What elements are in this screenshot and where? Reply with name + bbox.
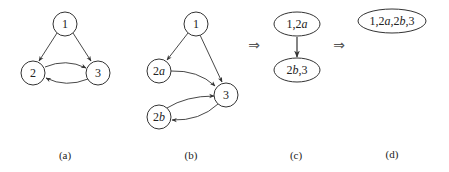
caption-b: (b) <box>185 149 198 162</box>
node-3-label: 3 <box>95 66 101 80</box>
panel-b: 1 2a 3 2b (b) <box>147 12 238 162</box>
caption-c: (c) <box>290 149 303 162</box>
implies-arrow-icon: ⇒ <box>248 37 260 53</box>
panel-d: 1,2a,2b,3 (d) <box>358 9 426 161</box>
node-1-label: 1 <box>193 17 199 31</box>
edge-2a-to-3 <box>171 71 215 86</box>
caption-a: (a) <box>59 149 72 162</box>
edge-1-to-2 <box>39 33 57 61</box>
implies-arrow-icon: ⇒ <box>333 37 345 53</box>
node-2b-label: 2b <box>153 110 165 124</box>
edge-1-to-3 <box>73 33 91 61</box>
node-2b-3-label: 2b,3 <box>287 63 308 77</box>
node-1-label: 1 <box>62 17 68 31</box>
panel-c: 1,2a 2b,3 (c) <box>274 12 320 162</box>
edge-3-to-2 <box>46 78 88 83</box>
caption-d: (d) <box>386 148 399 161</box>
panel-a: 1 2 3 (a) <box>21 12 110 162</box>
edge-1-to-3 <box>200 35 222 82</box>
edge-2-to-3 <box>45 63 86 68</box>
graph-condensation-diagram: 1 2 3 (a) 1 2a 3 2b (b) ⇒ 1,2a 2b,3 (c) … <box>0 0 449 172</box>
node-3-label: 3 <box>223 88 229 102</box>
edge-3-to-2b <box>172 104 218 120</box>
edge-2b-to-3 <box>167 96 214 108</box>
node-2-label: 2 <box>30 66 36 80</box>
node-2a-label: 2a <box>153 64 165 78</box>
node-1-2a-label: 1,2a <box>287 17 308 31</box>
edge-1-to-2a <box>167 33 188 60</box>
node-1-2a-2b-3-label: 1,2a,2b,3 <box>370 14 415 28</box>
